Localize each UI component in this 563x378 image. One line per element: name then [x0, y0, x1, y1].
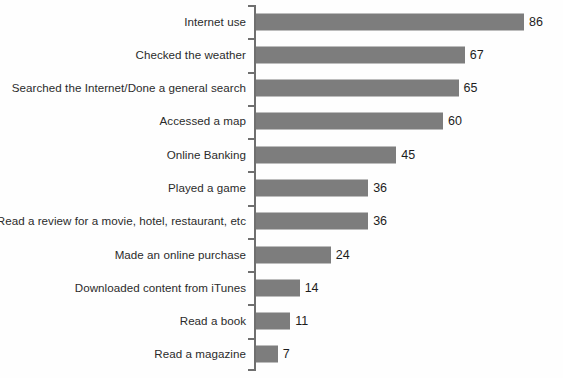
- bar-category-label: Read a magazine: [154, 347, 246, 361]
- bar-value-label: 36: [373, 181, 387, 195]
- bar-category-label: Online Banking: [167, 148, 246, 162]
- bar-category-label: Internet use: [184, 15, 246, 29]
- bar-value-label: 36: [373, 214, 387, 228]
- bar-value-label: 7: [283, 347, 290, 361]
- axis-tick: [248, 38, 255, 40]
- axis-tick: [248, 205, 255, 207]
- bar: [256, 279, 300, 296]
- bar-category-label: Played a game: [168, 181, 246, 195]
- bar-row: Read a magazine7: [0, 338, 563, 371]
- axis-tick: [248, 238, 255, 240]
- bar: [256, 146, 396, 163]
- bar: [256, 246, 331, 263]
- axis-tick: [248, 304, 255, 306]
- bar: [256, 346, 278, 363]
- axis-tick: [248, 72, 255, 74]
- bar: [256, 113, 443, 130]
- axis-tick: [248, 105, 255, 107]
- axis-tick: [248, 338, 255, 340]
- bar-row: Read a review for a movie, hotel, restau…: [0, 205, 563, 238]
- axis-tick: [248, 5, 255, 7]
- bar-value-label: 86: [529, 15, 543, 29]
- bar: [256, 46, 465, 63]
- bar-row: Accessed a map60: [0, 105, 563, 138]
- bar-value-label: 67: [470, 48, 484, 62]
- bar-rows: Internet use86Checked the weather67Searc…: [0, 5, 563, 371]
- bar-value-label: 65: [464, 81, 478, 95]
- bar: [256, 80, 459, 97]
- bar-category-label: Downloaded content from iTunes: [75, 281, 246, 295]
- bar-value-label: 14: [305, 281, 319, 295]
- bar-row: Made an online purchase24: [0, 238, 563, 271]
- bar-category-label: Read a book: [180, 314, 246, 328]
- bar-chart: Internet use86Checked the weather67Searc…: [0, 0, 563, 378]
- bar-value-label: 11: [295, 314, 308, 328]
- bar-row: Downloaded content from iTunes14: [0, 271, 563, 304]
- bar-category-label: Made an online purchase: [115, 248, 246, 262]
- bar-category-label: Accessed a map: [160, 114, 246, 128]
- bar-value-label: 60: [448, 114, 462, 128]
- axis-tick: [248, 171, 255, 173]
- bar: [256, 313, 290, 330]
- bar-row: Played a game36: [0, 171, 563, 204]
- bar: [256, 13, 524, 30]
- bar-category-label: Searched the Internet/Done a general sea…: [12, 81, 246, 95]
- bar-row: Internet use86: [0, 5, 563, 38]
- bar: [256, 179, 368, 196]
- bar-row: Online Banking45: [0, 138, 563, 171]
- axis-tick: [248, 138, 255, 140]
- bar-row: Searched the Internet/Done a general sea…: [0, 72, 563, 105]
- axis-tick: [248, 271, 255, 273]
- bar: [256, 213, 368, 230]
- bar-value-label: 24: [336, 248, 350, 262]
- bar-row: Checked the weather67: [0, 38, 563, 71]
- bar-value-label: 45: [401, 148, 415, 162]
- bar-category-label: Checked the weather: [135, 48, 246, 62]
- bar-row: Read a book11: [0, 304, 563, 337]
- bar-category-label: Read a review for a movie, hotel, restau…: [0, 214, 246, 228]
